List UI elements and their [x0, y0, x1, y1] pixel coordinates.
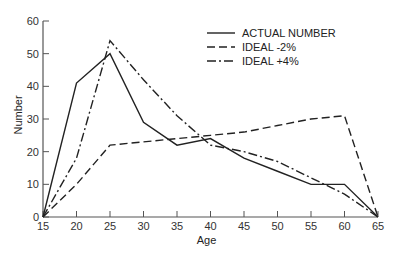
legend-label: IDEAL -2%	[242, 41, 296, 53]
legend-label: ACTUAL NUMBER	[242, 27, 336, 39]
x-tick-label: 60	[338, 220, 350, 232]
y-axis-label: Number	[12, 95, 24, 134]
y-tick-label: 40	[27, 80, 39, 92]
x-tick-label: 50	[271, 220, 283, 232]
series-line-2	[43, 41, 378, 217]
x-tick-label: 40	[204, 220, 216, 232]
y-tick-label: 50	[27, 48, 39, 60]
y-tick-label: 20	[27, 146, 39, 158]
x-tick-label: 30	[137, 220, 149, 232]
line-chart: 01020304050601520253035404550556065AgeNu…	[0, 0, 396, 262]
y-tick-label: 10	[27, 178, 39, 190]
legend-label: IDEAL +4%	[242, 55, 299, 67]
series-line-1	[43, 116, 378, 217]
x-tick-label: 65	[372, 220, 384, 232]
y-tick-label: 60	[27, 15, 39, 27]
x-tick-label: 35	[171, 220, 183, 232]
x-tick-label: 20	[70, 220, 82, 232]
x-tick-label: 45	[238, 220, 250, 232]
y-tick-label: 30	[27, 113, 39, 125]
x-tick-label: 25	[104, 220, 116, 232]
x-tick-label: 55	[305, 220, 317, 232]
x-axis-label: Age	[197, 234, 217, 246]
x-tick-label: 15	[37, 220, 49, 232]
